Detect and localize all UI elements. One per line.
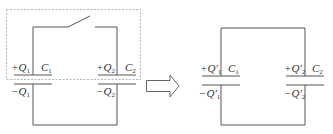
subscript: 1 — [26, 91, 30, 99]
label-c1-prime: C1 — [228, 63, 239, 76]
subscript: 2 — [302, 93, 306, 101]
charge: Q′ — [291, 62, 301, 74]
subscript: 1 — [217, 93, 221, 101]
subscript: 2 — [132, 67, 136, 75]
capacitor-switch-diagram: +Q1 C1 −Q1 +Q2 C2 −Q2 +Q′1 C1 −Q′1 +Q′2 … — [0, 0, 333, 134]
label-minus-q1-prime: −Q′1 — [199, 88, 220, 101]
label-plus-q2-prime: +Q′2 — [284, 63, 305, 76]
subscript: 2 — [111, 67, 115, 75]
label-minus-q1: −Q1 — [11, 86, 30, 99]
subscript: 2 — [111, 91, 115, 99]
charge: Q′ — [206, 87, 216, 99]
label-minus-q2-prime: −Q′2 — [284, 88, 305, 101]
label-c1: C1 — [41, 62, 52, 75]
left-circuit — [14, 16, 136, 125]
label-c2: C2 — [125, 62, 136, 75]
subscript: 2 — [319, 68, 323, 76]
subscript: 1 — [26, 67, 30, 75]
charge: Q′ — [291, 87, 301, 99]
label-minus-q2: −Q2 — [96, 86, 115, 99]
subscript: 1 — [235, 68, 239, 76]
label-plus-q1: +Q1 — [11, 62, 30, 75]
subscript: 1 — [218, 68, 222, 76]
label-plus-q2: +Q2 — [96, 62, 115, 75]
label-c2-prime: C2 — [312, 63, 323, 76]
right-circuit — [202, 28, 324, 125]
subscript: 2 — [302, 68, 306, 76]
switch-blade — [68, 16, 90, 27]
right-arrow-icon — [147, 75, 180, 97]
charge: Q′ — [207, 62, 217, 74]
label-plus-q1-prime: +Q′1 — [200, 63, 221, 76]
subscript: 1 — [48, 67, 52, 75]
